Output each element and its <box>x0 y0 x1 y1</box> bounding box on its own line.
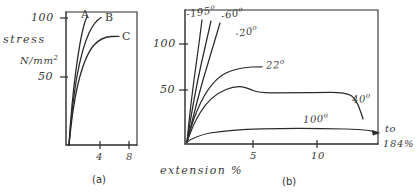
panel-a-curve-label-A: A <box>81 9 90 20</box>
panel-b-curve-100 <box>187 128 369 142</box>
panel-a-caption: (a) <box>92 174 106 185</box>
panel-b-degree-minus20: o <box>252 23 258 32</box>
panel-b-ytick-label-50: 50 <box>160 84 175 95</box>
panel-b-caption: (b) <box>282 176 296 187</box>
panel-a-units-text: N/mm <box>20 55 53 66</box>
panel-b-curve-label-40: 40o <box>352 93 371 105</box>
panel-a-curve-B <box>69 18 101 146</box>
panel-a-yaxis-label-units: N/mm2 <box>20 55 59 66</box>
panel-b-xtick-label-10: 10 <box>311 151 325 161</box>
panel-b-degree-minus195: o <box>210 3 216 12</box>
panel-b-ytick-label-100: 100 <box>153 38 176 49</box>
panel-b-curve-40 <box>187 87 363 142</box>
panel-a-curve-label-B: B <box>105 12 114 23</box>
panel-b-degree-40: o <box>366 92 371 100</box>
panel-b-xtick-label-5: 5 <box>250 151 257 161</box>
panel-b-annotation-184pct: 184% <box>383 139 414 149</box>
panel-b-label-text-40: 40 <box>352 93 366 105</box>
panel-b-degree-100: o <box>324 111 329 119</box>
panel-a-xtick-label-8: 8 <box>126 152 133 162</box>
panel-b-label-text-100: 100 <box>303 113 324 125</box>
panel-a-curve-C <box>69 36 119 145</box>
panel-a-curve-label-C: C <box>122 31 131 42</box>
panel-a-xtick-label-4: 4 <box>96 152 103 162</box>
panel-b-curve-label-22: 22o <box>266 59 285 71</box>
panel-a-yaxis-label-stress: stress <box>3 34 46 45</box>
panel-b-degree-22: o <box>280 58 285 66</box>
panel-b-curve-label-100: 100o <box>303 112 329 125</box>
panel-a-units-exponent: 2 <box>53 54 58 62</box>
panel-b-label-text-22: 22 <box>266 59 280 71</box>
panel-a-ytick-label-100: 100 <box>31 12 54 23</box>
panel-b-annotation-to: to <box>385 124 396 134</box>
panel-b-xaxis-label: extension % <box>160 165 243 176</box>
panel-a-ytick-label-50: 50 <box>38 71 53 82</box>
